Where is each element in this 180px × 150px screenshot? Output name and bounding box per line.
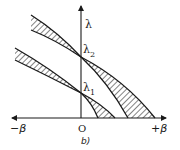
upper-band-left-hatch [31, 15, 81, 57]
x-axis-right-label: +β [151, 122, 167, 135]
diagram-canvas: λ λ 2 λ 1 −β O +β b) [0, 0, 180, 150]
svg-text:1: 1 [90, 88, 95, 97]
origin-label: O [78, 123, 86, 134]
lower-band-right-hatch [81, 93, 115, 118]
figure-caption: b) [81, 136, 90, 146]
svg-text:2: 2 [90, 50, 95, 59]
lower-stability-band [15, 48, 115, 118]
point-label-lambda-2: λ 2 [83, 43, 95, 59]
y-axis-label: λ [85, 18, 92, 31]
x-axis-left-label: −β [10, 122, 26, 135]
svg-text:λ: λ [83, 81, 90, 94]
lower-band-left-hatch [15, 48, 81, 93]
svg-text:λ: λ [83, 43, 90, 56]
